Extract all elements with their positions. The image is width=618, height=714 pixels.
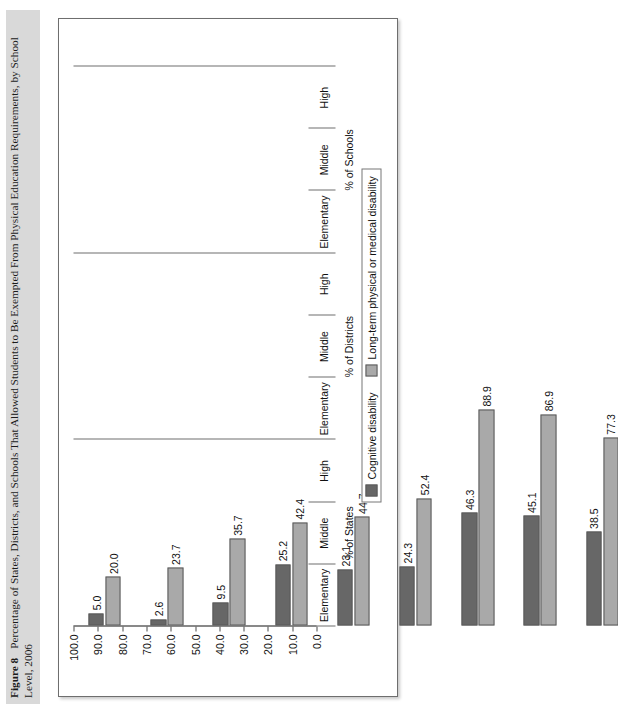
value-tick xyxy=(267,626,268,631)
value-tick xyxy=(122,626,123,631)
bar: 45.1 xyxy=(523,515,539,625)
bar-value-label: 46.3 xyxy=(463,489,475,509)
value-tick xyxy=(73,626,74,631)
group-label: % of States xyxy=(342,506,354,560)
legend-swatch-icon-cognitive xyxy=(365,484,377,496)
value-tick xyxy=(219,626,220,631)
bar-value-label: 45.1 xyxy=(525,492,537,512)
level-separator xyxy=(308,563,335,564)
value-tick-label: 90.0 xyxy=(91,634,103,654)
bar: 23.7 xyxy=(167,567,183,625)
figure-caption-band: Figure 8Percentage of States, Districts,… xyxy=(6,10,40,704)
value-tick-label: 40.0 xyxy=(213,634,225,654)
level-separator xyxy=(308,189,335,190)
bar: 20.0 xyxy=(105,576,121,625)
bar: 5.0 xyxy=(88,613,104,625)
bar: 38.5 xyxy=(586,531,602,625)
group-separator xyxy=(73,252,335,253)
bar: 52.4 xyxy=(416,498,432,625)
plot-area: 0.010.020.030.040.050.060.070.080.090.01… xyxy=(73,66,316,626)
value-tick-label: 30.0 xyxy=(237,634,249,654)
bar: 25.2 xyxy=(275,564,291,625)
figure-number: Figure 8 xyxy=(8,658,20,698)
bar-value-label: 42.4 xyxy=(293,499,305,519)
figure-caption: Figure 8Percentage of States, Districts,… xyxy=(6,10,40,704)
legend-swatch-icon-longterm xyxy=(365,364,377,376)
group-label: % of Districts xyxy=(342,315,354,376)
bar: 46.3 xyxy=(461,513,477,626)
bar: 86.9 xyxy=(540,414,556,625)
value-tick-label: 70.0 xyxy=(140,634,152,654)
value-tick xyxy=(195,626,196,631)
legend-item-cognitive-disability: Cognitive disability xyxy=(365,392,377,496)
bar-value-label: 35.7 xyxy=(231,515,243,535)
value-tick-label: 20.0 xyxy=(261,634,273,654)
category-axis-end xyxy=(73,65,335,66)
value-tick-label: 60.0 xyxy=(164,634,176,654)
category-label: Middle xyxy=(317,144,329,175)
value-tick-label: 10.0 xyxy=(286,634,298,654)
category-label: High xyxy=(317,460,329,482)
bar: 88.9 xyxy=(478,409,494,625)
bar-value-label: 24.3 xyxy=(401,543,413,563)
bar-value-label: 38.5 xyxy=(587,508,599,528)
bar-value-label: 9.5 xyxy=(214,584,226,599)
category-label: Elementary xyxy=(317,568,329,621)
value-tick xyxy=(243,626,244,631)
bar-value-label: 20.0 xyxy=(107,553,119,573)
value-tick xyxy=(97,626,98,631)
category-label: Elementary xyxy=(317,382,329,435)
value-tick-label: 0.0 xyxy=(310,634,322,649)
chart-canvas: 0.010.020.030.040.050.060.070.080.090.01… xyxy=(59,19,399,698)
value-tick-label: 100.0 xyxy=(67,634,79,660)
bar: 2.6 xyxy=(150,619,166,625)
bar-value-label: 86.9 xyxy=(542,390,554,410)
chart-frame: 0.010.020.030.040.050.060.070.080.090.01… xyxy=(58,18,398,697)
value-tick xyxy=(316,626,317,631)
bar: 9.5 xyxy=(212,602,228,625)
legend-label-longterm: Long-term physical or medical disability xyxy=(365,176,377,359)
value-tick xyxy=(170,626,171,631)
value-tick xyxy=(292,626,293,631)
bar-value-label: 88.9 xyxy=(480,386,492,406)
bar-value-label: 5.0 xyxy=(90,595,102,610)
legend-label-cognitive: Cognitive disability xyxy=(365,392,377,479)
level-separator xyxy=(308,501,335,502)
group-label: % of Schools xyxy=(342,129,354,190)
bar-value-label: 77.3 xyxy=(604,414,616,434)
category-label: High xyxy=(317,273,329,295)
bar-value-label: 23.7 xyxy=(169,544,181,564)
value-tick-label: 80.0 xyxy=(116,634,128,654)
category-label: Middle xyxy=(317,331,329,362)
category-axis-start xyxy=(73,625,335,626)
category-label: High xyxy=(317,86,329,108)
category-label: Elementary xyxy=(317,195,329,248)
level-separator xyxy=(308,314,335,315)
value-tick xyxy=(146,626,147,631)
group-separator xyxy=(73,438,335,439)
chart-legend: Cognitive disability Long-term physical … xyxy=(361,168,381,502)
bar: 24.3 xyxy=(399,566,415,625)
level-separator xyxy=(308,127,335,128)
bar: 77.3 xyxy=(603,437,618,625)
legend-item-longterm-disability: Long-term physical or medical disability xyxy=(365,176,377,376)
category-label: Middle xyxy=(317,517,329,548)
bar: 35.7 xyxy=(229,538,245,625)
figure-caption-text: Percentage of States, Districts, and Sch… xyxy=(8,37,34,698)
bar-value-label: 25.2 xyxy=(276,540,288,560)
bars-container: 5.020.02.623.79.535.725.242.423.144.724.… xyxy=(73,66,316,625)
bar: 42.4 xyxy=(292,522,308,625)
bar-value-label: 2.6 xyxy=(152,601,164,616)
level-separator xyxy=(308,376,335,377)
bar-value-label: 52.4 xyxy=(418,474,430,494)
value-tick-label: 50.0 xyxy=(189,634,201,654)
